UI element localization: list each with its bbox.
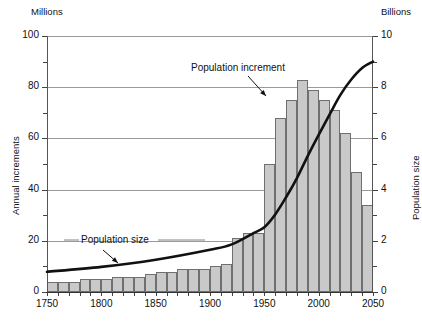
bar [101,279,112,292]
axis-tick-major [373,138,378,139]
bar [69,282,80,292]
axis-tick-minor [43,62,47,63]
bar [90,279,101,292]
population-chart-figure: Millions Billions Annual increments Popu… [0,0,422,327]
axis-tick-label: 1850 [145,298,167,309]
bar [340,133,351,292]
axis-tick-label: 0 [33,285,39,296]
axis-tick-label: 2 [381,234,387,245]
axis-tick-minor [43,266,47,267]
plot-area [47,36,373,292]
bar [253,233,264,292]
axis-tick-label: 1950 [253,298,275,309]
axis-tick-major [42,36,47,37]
axis-tick-major [42,241,47,242]
gridline [47,87,373,88]
axis-tick-minor [373,113,377,114]
axis-tick-minor [373,266,377,267]
bar [58,282,69,292]
axis-tick-label: 1800 [90,298,112,309]
axis-tick-major [373,241,378,242]
annotation-population-size: Population size [81,234,149,245]
bar [319,100,330,292]
axis-tick-label: 20 [28,234,39,245]
bar [308,90,319,292]
axis-tick-label: 10 [381,29,392,40]
bar [80,279,91,292]
axis-tick-label: 0 [381,285,387,296]
axis-tick-label: 2000 [308,298,330,309]
axis-tick-label: 80 [28,80,39,91]
bar [47,282,58,292]
bar [297,80,308,292]
axis-tick-label: 1750 [36,298,58,309]
axis-tick-label: 4 [381,183,387,194]
axis-tick-label: 6 [381,131,387,142]
bar [362,205,373,292]
axis-tick-label: 60 [28,131,39,142]
axis-tick-minor [43,164,47,165]
gridline [47,36,373,37]
axis-tick-major [42,87,47,88]
axis-tick-major [373,87,378,88]
bar [351,172,362,292]
axis-tick-major [373,190,378,191]
bar [264,164,275,292]
axis-tick-minor [373,215,377,216]
axis-tick-label: 100 [22,29,39,40]
left-axis-unit-label: Millions [31,6,63,17]
axis-tick-major [42,138,47,139]
bar [112,277,123,292]
bar [199,269,210,292]
axis-tick-label: 1900 [199,298,221,309]
annotation-population-increment: Population increment [191,62,285,73]
bar [210,266,221,292]
bar [156,272,167,292]
left-axis-title: Annual increments [10,136,21,215]
right-axis-unit-label: Billions [381,6,411,17]
bar [221,264,232,292]
bar [177,269,188,292]
bar [167,272,178,292]
axis-tick-label: 40 [28,183,39,194]
bar [275,118,286,292]
bar [243,233,254,292]
bar [134,277,145,292]
axis-tick-minor [43,113,47,114]
axis-tick-label: 2050 [362,298,384,309]
bar [286,100,297,292]
axis-tick-major [373,36,378,37]
bar [188,269,199,292]
bar [123,277,134,292]
axis-tick-major [42,190,47,191]
axis-tick [373,292,374,296]
axis-tick-minor [373,164,377,165]
bar [145,274,156,292]
bar [232,238,243,292]
axis-tick-minor [373,62,377,63]
right-axis-title: Population size [410,156,421,220]
bar [330,110,341,292]
axis-tick-minor [43,215,47,216]
axis-tick-label: 8 [381,80,387,91]
x-axis-line [47,292,373,293]
